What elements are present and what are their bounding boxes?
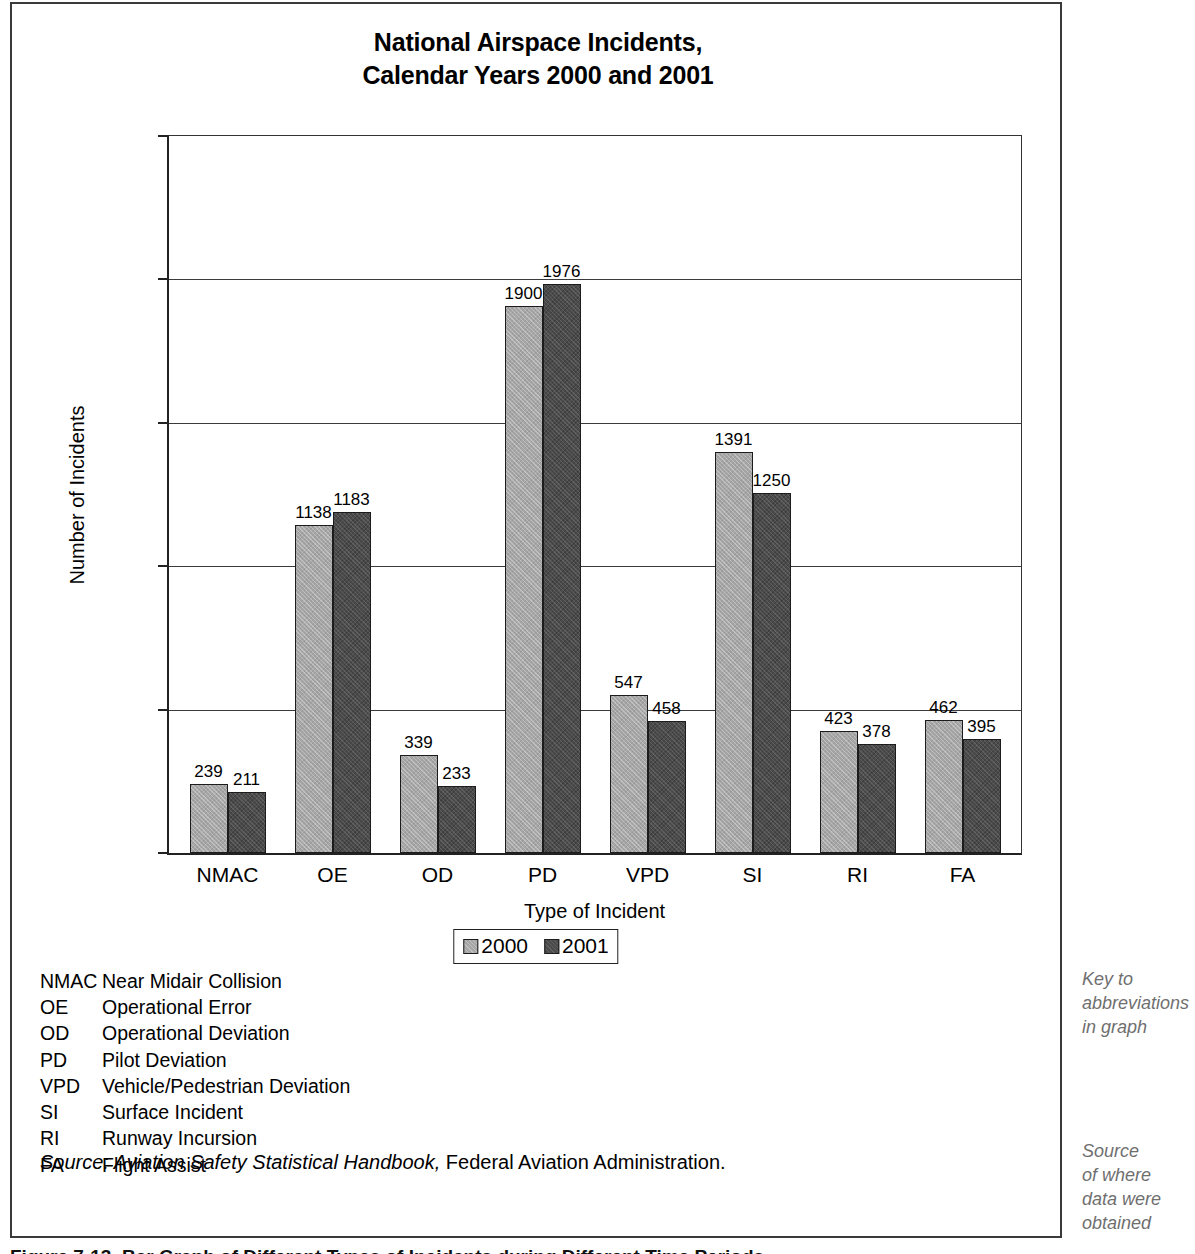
bar-si-2000: 1391 <box>715 452 753 853</box>
x-axis-tick-label-nmac: NMAC <box>197 863 259 887</box>
bar-value-label: 1391 <box>715 430 753 450</box>
bar-value-label: 462 <box>929 698 957 718</box>
bar-group-si: 13911250SI <box>700 136 805 853</box>
abbreviation-row-pd: PDPilot Deviation <box>40 1047 350 1073</box>
bar-od-2001: 233 <box>438 786 476 853</box>
chart-title-line-2: Calendar Years 2000 and 2001 <box>12 59 1064 92</box>
abbreviation-description: Near Midair Collision <box>102 968 282 994</box>
source-note: Source: Aviation Safety Statistical Hand… <box>40 1151 726 1174</box>
dark-gray-swatch <box>544 939 559 954</box>
abbreviation-description: Surface Incident <box>102 1099 243 1125</box>
figure-border-box: National Airspace Incidents, Calendar Ye… <box>10 2 1062 1238</box>
abbreviation-row-ri: RIRunway Incursion <box>40 1125 350 1151</box>
bar-value-label: 1183 <box>333 490 370 510</box>
bar-ri-2000: 423 <box>820 731 858 853</box>
abbreviation-code: OE <box>40 994 102 1020</box>
bar-group-vpd: 547458VPD <box>595 136 700 853</box>
margin-note-source-line-3: data were <box>1082 1188 1161 1212</box>
bar-vpd-2001: 458 <box>648 721 686 853</box>
abbreviation-row-od: ODOperational Deviation <box>40 1020 350 1046</box>
y-axis-tick-mark <box>158 422 169 424</box>
x-axis-label: Type of Incident <box>167 900 1022 923</box>
abbreviation-code: VPD <box>40 1073 102 1099</box>
chart-title: National Airspace Incidents, Calendar Ye… <box>12 26 1064 92</box>
bar-value-label: 211 <box>233 770 260 790</box>
abbreviation-description: Runway Incursion <box>102 1125 257 1151</box>
abbreviation-description: Operational Deviation <box>102 1020 290 1046</box>
abbreviation-row-si: SISurface Incident <box>40 1099 350 1125</box>
abbreviation-code: OD <box>40 1020 102 1046</box>
bar-value-label: 547 <box>614 673 642 693</box>
bar-group-od: 339233OD <box>385 136 490 853</box>
abbreviation-row-oe: OEOperational Error <box>40 994 350 1020</box>
plot-area: Number of Incidents 05001000150020002500… <box>167 135 1022 855</box>
legend-item-2001: 2001 <box>544 934 609 958</box>
bar-value-label: 378 <box>862 722 890 742</box>
y-axis-tick-mark <box>158 135 169 137</box>
bar-value-label: 1900 <box>505 284 543 304</box>
bar-value-label: 339 <box>404 733 432 753</box>
abbreviation-code: RI <box>40 1125 102 1151</box>
bar-group-pd: 19001976PD <box>490 136 595 853</box>
bar-vpd-2000: 547 <box>610 695 648 853</box>
bar-group-oe: 11381183OE <box>280 136 385 853</box>
margin-note-key-to-abbreviations: Key toabbreviationsin graph <box>1082 968 1189 1040</box>
abbreviation-code: PD <box>40 1047 102 1073</box>
bar-value-label: 1250 <box>753 471 791 491</box>
margin-note-source-of-data: Sourceof wheredata wereobtained <box>1082 1140 1161 1236</box>
bar-fa-2000: 462 <box>925 720 963 853</box>
margin-note-source-line-2: of where <box>1082 1164 1161 1188</box>
margin-note-key-line-2: abbreviations <box>1082 992 1189 1016</box>
bar-pd-2001: 1976 <box>543 284 581 853</box>
bar-pd-2000: 1900 <box>505 306 543 853</box>
margin-note-source-line-1: Source <box>1082 1140 1161 1164</box>
figure-caption: Figure 7-13. Bar Graph of Different Type… <box>10 1246 764 1254</box>
light-gray-swatch <box>463 939 478 954</box>
bar-nmac-2000: 239 <box>190 784 228 853</box>
figure-page: National Airspace Incidents, Calendar Ye… <box>0 0 1195 1254</box>
x-axis-tick-label-od: OD <box>422 863 454 887</box>
y-axis-tick-mark <box>158 278 169 280</box>
legend-label: 2001 <box>562 934 609 958</box>
abbreviation-row-vpd: VPDVehicle/Pedestrian Deviation <box>40 1073 350 1099</box>
x-axis-tick-label-ri: RI <box>847 863 868 887</box>
x-axis-tick-label-vpd: VPD <box>626 863 669 887</box>
bar-value-label: 1976 <box>543 262 581 282</box>
bar-groups: 239211NMAC11381183OE339233OD19001976PD54… <box>169 136 1021 853</box>
bar-group-nmac: 239211NMAC <box>175 136 280 853</box>
abbreviation-code: SI <box>40 1099 102 1125</box>
abbreviation-description: Vehicle/Pedestrian Deviation <box>102 1073 350 1099</box>
x-axis-tick-label-si: SI <box>743 863 763 887</box>
chart-legend: 20002001 <box>453 929 618 964</box>
legend-label: 2000 <box>481 934 528 958</box>
margin-note-key-line-3: in graph <box>1082 1016 1189 1040</box>
bar-value-label: 423 <box>824 709 852 729</box>
legend-item-2000: 2000 <box>463 934 528 958</box>
x-axis-tick-label-pd: PD <box>528 863 557 887</box>
abbreviation-description: Operational Error <box>102 994 252 1020</box>
source-note-plain: Federal Aviation Administration. <box>440 1151 725 1173</box>
bar-oe-2000: 1138 <box>295 525 333 853</box>
source-note-italic: Source: Aviation Safety Statistical Hand… <box>40 1151 440 1173</box>
y-axis-tick-mark <box>158 565 169 567</box>
bar-value-label: 395 <box>967 717 995 737</box>
abbreviation-code: NMAC <box>40 968 102 994</box>
y-axis-tick-mark <box>158 852 169 854</box>
margin-note-source-line-4: obtained <box>1082 1212 1161 1236</box>
x-axis-tick-label-fa: FA <box>950 863 976 887</box>
bar-group-fa: 462395FA <box>910 136 1015 853</box>
abbreviation-description: Pilot Deviation <box>102 1047 227 1073</box>
bar-oe-2001: 1183 <box>333 512 371 853</box>
bar-fa-2001: 395 <box>963 739 1001 853</box>
bar-od-2000: 339 <box>400 755 438 853</box>
bar-value-label: 458 <box>652 699 680 719</box>
bar-value-label: 233 <box>442 764 470 784</box>
bar-ri-2001: 378 <box>858 744 896 853</box>
bar-si-2001: 1250 <box>753 493 791 853</box>
abbreviation-row-nmac: NMACNear Midair Collision <box>40 968 350 994</box>
abbreviation-key-list: NMACNear Midair CollisionOEOperational E… <box>40 968 350 1178</box>
bar-group-ri: 423378RI <box>805 136 910 853</box>
bar-value-label: 1138 <box>295 503 332 523</box>
margin-note-key-line-1: Key to <box>1082 968 1189 992</box>
chart-title-line-1: National Airspace Incidents, <box>12 26 1064 59</box>
